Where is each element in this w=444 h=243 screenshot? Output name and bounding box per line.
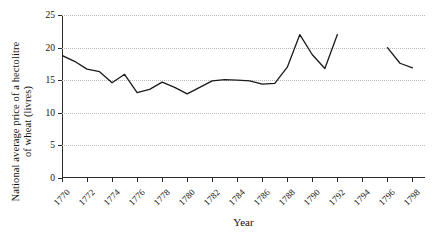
chart-figure: National average price of a hectolitre o… [0,0,444,243]
x-tick-label-1780: 1780 [177,187,197,207]
y-tick-label-20: 20 [46,43,56,53]
x-tick-label-1772: 1772 [77,187,97,207]
x-tick-label-1794: 1794 [352,187,372,207]
x-tick-1772 [87,178,88,182]
y-tick-label-10: 10 [46,108,56,118]
x-tick-label-1790: 1790 [302,187,322,207]
x-tick-label-1778: 1778 [152,187,172,207]
y-axis-title-line2: of wheat (livres) [22,42,35,202]
x-axis-title: Year [62,216,425,228]
x-tick-1794 [362,178,363,182]
x-tick-label-1770: 1770 [52,187,72,207]
x-tick-1774 [112,178,113,182]
y-axis-title: National average price of a hectolitre o… [0,0,44,243]
y-tick-label-15: 15 [46,75,56,85]
x-tick-1784 [237,178,238,182]
x-tick-1778 [162,178,163,182]
x-tick-label-1784: 1784 [227,187,247,207]
plot-area: 0510152025 17701772177417761778178017821… [62,15,425,178]
x-tick-1780 [187,178,188,182]
x-tick-1790 [312,178,313,182]
y-tick-label-0: 0 [50,173,55,183]
y-tick-label-25: 25 [46,10,56,20]
x-tick-label-1776: 1776 [127,187,147,207]
x-tick-label-1786: 1786 [252,187,272,207]
x-tick-label-1796: 1796 [377,187,397,207]
y-axis-title-line1: National average price of a hectolitre [10,42,23,202]
x-tick-label-1798: 1798 [402,187,422,207]
x-tick-label-1788: 1788 [277,187,297,207]
data-series-layer [62,15,425,178]
x-tick-label-1774: 1774 [102,187,122,207]
x-tick-1786 [262,178,263,182]
x-tick-1788 [287,178,288,182]
x-tick-1798 [412,178,413,182]
x-tick-1796 [387,178,388,182]
x-tick-label-1782: 1782 [202,187,222,207]
x-tick-1782 [212,178,213,182]
x-tick-label-1792: 1792 [327,187,347,207]
y-tick-label-5: 5 [50,140,55,150]
x-tick-1770 [62,178,63,182]
x-tick-1792 [337,178,338,182]
data-line-segment-0 [62,35,337,94]
data-line-segment-1 [387,48,412,68]
x-tick-1776 [137,178,138,182]
